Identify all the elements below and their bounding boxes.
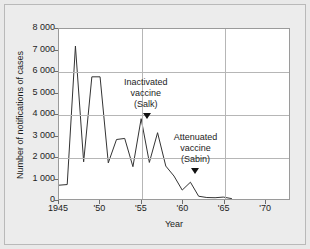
x-axis-tick-mark: [182, 200, 183, 204]
x-axis-tick-mark: [224, 200, 225, 204]
x-axis-tick-mark: [58, 200, 59, 204]
y-axis-ticks: 01 0002 0003 0004 0005 0006 0007 0008 00…: [0, 0, 55, 249]
x-axis-label: Year: [58, 219, 290, 229]
chart-figure: 01 0002 0003 0004 0005 0006 0007 0008 00…: [0, 0, 310, 249]
plot-area: [58, 28, 290, 200]
y-axis-tick-label: 1 000: [3, 174, 55, 183]
annotation-salk: Inactivatedvaccine(Salk): [124, 77, 168, 110]
y-axis-tick-label: 4 000: [3, 109, 55, 118]
x-axis-tick-mark: [141, 200, 142, 204]
annotation-line: vaccine: [174, 143, 218, 154]
data-series-line: [59, 29, 289, 199]
x-axis-tick-mark: [265, 200, 266, 204]
x-axis-tick-label: 1945: [48, 203, 68, 213]
y-axis-tick-label: 3 000: [3, 131, 55, 140]
annotation-line: vaccine: [124, 88, 168, 99]
x-axis-tick-label: '50: [94, 203, 106, 213]
annotation-arrow-salk: [143, 113, 151, 119]
x-axis-tick-label: '55: [135, 203, 147, 213]
y-axis-tick-label: 6 000: [3, 66, 55, 75]
annotation-arrow-sabin: [191, 168, 199, 174]
gridline-vertical: [225, 29, 226, 199]
x-axis-tick-label: '70: [259, 203, 271, 213]
x-axis-tick-mark: [99, 200, 100, 204]
y-axis-tick-label: 8 000: [3, 23, 55, 32]
y-axis-label: Number of notifications of cases: [15, 35, 25, 195]
gridline-horizontal: [59, 115, 289, 116]
y-axis-tick-label: 5 000: [3, 88, 55, 97]
x-axis-tick-label: '60: [176, 203, 188, 213]
x-axis-tick-label: '65: [218, 203, 230, 213]
annotation-line: (Sabin): [174, 154, 218, 165]
gridline-horizontal: [59, 72, 289, 73]
annotation-line: Attenuated: [174, 132, 218, 143]
annotation-sabin: Attenuatedvaccine(Sabin): [174, 132, 218, 165]
annotation-line: (Salk): [124, 99, 168, 110]
y-axis-tick-label: 7 000: [3, 45, 55, 54]
annotation-line: Inactivated: [124, 77, 168, 88]
y-axis-tick-label: 2 000: [3, 152, 55, 161]
